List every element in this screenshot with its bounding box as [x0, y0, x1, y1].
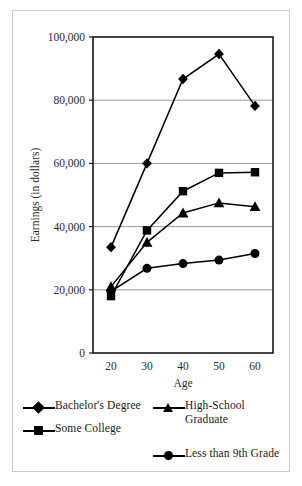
- x-tick-label: 20: [105, 360, 117, 372]
- x-axis-tick-labels: 2030405060: [105, 360, 261, 372]
- data-point-high-school-graduate: [214, 198, 225, 208]
- y-tick-label: 40,000: [53, 221, 85, 234]
- legend-label-high-school-graduate: High-School Graduate: [185, 399, 245, 426]
- data-point-some-college: [215, 169, 223, 177]
- legend-column-left: Bachelor's Degree Some College: [23, 399, 153, 445]
- circle-marker-icon: [153, 449, 185, 463]
- x-tick-label: 40: [177, 360, 189, 372]
- square-marker-icon: [23, 424, 55, 438]
- x-tick-label: 50: [213, 360, 225, 372]
- x-tick-label: 30: [141, 360, 153, 372]
- data-point-less-than-9th-grade: [107, 287, 116, 296]
- legend-item-bachelors-degree[interactable]: Bachelor's Degree: [23, 399, 153, 415]
- triangle-marker-icon: [153, 401, 185, 415]
- legend-label-bachelors-degree: Bachelor's Degree: [55, 399, 141, 413]
- chart-legend: Bachelor's Degree Some College High-Scho…: [13, 399, 291, 469]
- data-point-bachelor-s-degree: [106, 242, 116, 252]
- data-point-some-college: [251, 168, 259, 176]
- data-point-bachelor-s-degree: [142, 158, 152, 168]
- y-axis-title: Earnings (in dollars): [29, 148, 42, 243]
- y-tick-label: 100,000: [48, 31, 86, 44]
- legend-item-high-school-graduate[interactable]: High-School Graduate: [153, 399, 289, 426]
- y-tick-label: 80,000: [53, 94, 85, 107]
- data-point-bachelor-s-degree: [178, 74, 188, 84]
- x-tick-label: 60: [249, 360, 261, 372]
- data-point-less-than-9th-grade: [215, 256, 224, 265]
- legend-column-right: High-School Graduate Less than 9th Grade: [153, 399, 289, 470]
- data-point-some-college: [179, 187, 187, 195]
- figure-frame: 020,00040,00060,00080,000100,000 2030405…: [12, 10, 290, 472]
- chart-plot-region: 020,00040,00060,00080,000100,000 2030405…: [13, 11, 291, 391]
- y-axis-tick-labels: 020,00040,00060,00080,000100,000: [48, 31, 86, 359]
- earnings-by-age-line-chart: 020,00040,00060,00080,000100,000 2030405…: [13, 11, 291, 391]
- data-point-less-than-9th-grade: [143, 264, 152, 273]
- legend-item-some-college[interactable]: Some College: [23, 422, 153, 438]
- x-axis-title: Age: [173, 377, 192, 390]
- y-tick-label: 0: [79, 347, 85, 359]
- diamond-marker-icon: [23, 401, 55, 415]
- legend-label-less-than-9th-grade: Less than 9th Grade: [185, 447, 279, 461]
- data-point-less-than-9th-grade: [251, 249, 260, 258]
- data-point-some-college: [143, 226, 151, 234]
- y-tick-label: 60,000: [53, 157, 85, 170]
- y-tick-label: 20,000: [53, 284, 85, 297]
- data-point-less-than-9th-grade: [179, 259, 188, 268]
- legend-label-some-college: Some College: [55, 422, 121, 436]
- legend-item-less-than-9th-grade[interactable]: Less than 9th Grade: [153, 447, 289, 463]
